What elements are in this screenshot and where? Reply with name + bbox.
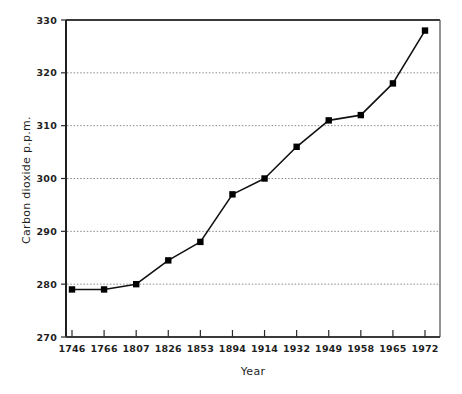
data-point-1972 bbox=[422, 27, 428, 33]
x-tick-label-1965: 1965 bbox=[379, 343, 406, 354]
data-point-1958 bbox=[358, 112, 364, 118]
data-point-1965 bbox=[390, 80, 396, 86]
x-tick-label-1972: 1972 bbox=[411, 343, 438, 354]
y-tick-label-300: 300 bbox=[37, 173, 58, 184]
x-tick-label-1914: 1914 bbox=[251, 343, 278, 354]
data-point-1949 bbox=[326, 117, 332, 123]
y-tick-label-310: 310 bbox=[37, 120, 58, 131]
y-tick-label-270: 270 bbox=[37, 332, 58, 343]
data-point-1766 bbox=[101, 286, 107, 292]
data-point-1807 bbox=[133, 281, 139, 287]
data-point-1894 bbox=[229, 191, 235, 197]
x-tick-label-1949: 1949 bbox=[315, 343, 342, 354]
chart-canvas: 270280290300310320330 174617661807182618… bbox=[0, 0, 462, 394]
y-tick-label-290: 290 bbox=[37, 226, 58, 237]
y-tick-label-320: 320 bbox=[37, 67, 58, 78]
x-axis-title: Year bbox=[240, 365, 266, 378]
y-tick-label-330: 330 bbox=[37, 15, 58, 26]
y-axis-title: Carbon dioxide p.p.m. bbox=[20, 116, 33, 244]
x-tick-label-1853: 1853 bbox=[187, 343, 214, 354]
x-tick-label-1894: 1894 bbox=[219, 343, 246, 354]
data-point-1932 bbox=[293, 144, 299, 150]
data-point-1914 bbox=[261, 175, 267, 181]
x-tick-label-1807: 1807 bbox=[123, 343, 150, 354]
data-point-1826 bbox=[165, 257, 171, 263]
x-tick-label-1932: 1932 bbox=[283, 343, 310, 354]
x-tick-label-1958: 1958 bbox=[347, 343, 374, 354]
co2-line-chart-figure: 270280290300310320330 174617661807182618… bbox=[0, 0, 462, 394]
x-tick-label-1766: 1766 bbox=[90, 343, 117, 354]
x-tick-label-1826: 1826 bbox=[155, 343, 182, 354]
data-point-1746 bbox=[69, 286, 75, 292]
data-point-1853 bbox=[197, 239, 203, 245]
x-tick-label-1746: 1746 bbox=[58, 343, 85, 354]
y-tick-label-280: 280 bbox=[37, 279, 58, 290]
